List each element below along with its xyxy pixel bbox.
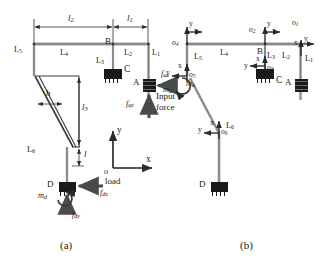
frame-origin-label-o3: o3 — [267, 64, 274, 72]
frame-axis-label-o2-y: y — [267, 20, 271, 28]
dimension-label-l1: l1 — [127, 14, 133, 24]
force-label-fay: fay — [126, 100, 134, 109]
frame-origin-label-o2: o2 — [249, 26, 256, 34]
diagram-vector-layer — [0, 0, 323, 267]
frame-axis-label-o3-y: y — [244, 62, 248, 70]
link-label-L3: L3 — [96, 57, 104, 66]
force-label-fdy: fdy — [72, 211, 80, 220]
figure-canvas: l2 l1 l3 h l L5 L4 L3 L2 L1 L6 B C A D f… — [0, 0, 323, 267]
global-axis-label-x: x — [146, 155, 151, 165]
frame-origin-label-o6: o6 — [221, 128, 228, 136]
block-D-b — [211, 182, 228, 196]
block-A — [143, 79, 156, 92]
frame-axis-label-o4-y: y — [189, 20, 193, 28]
input-force-label-line2: force — [156, 103, 174, 112]
joint-label-A-b: A — [285, 78, 292, 87]
force-label-fdx: fdx — [100, 189, 108, 198]
joint-label-C: C — [124, 65, 130, 75]
frame-origin-label-o4: o4 — [172, 39, 179, 47]
link-label-L4: L4 — [60, 49, 68, 58]
dimension-l — [72, 149, 84, 166]
link-label-L1-b: L1 — [305, 55, 313, 64]
frame-origin-label-o5: o5 — [189, 71, 196, 79]
frame-axis-label-o4-x: x — [194, 27, 198, 35]
link-label-L2-b: L2 — [282, 52, 290, 61]
frame-axis-label-o5-x: x — [178, 62, 182, 70]
dimension-label-l3: l3 — [82, 103, 88, 113]
link-label-L1: L1 — [152, 49, 160, 58]
link-label-L3-b: L3 — [267, 52, 275, 61]
mass-label-ma: ma — [186, 80, 195, 89]
link-label-L2: L2 — [124, 49, 132, 58]
frame-axis-label-o3-x: x — [256, 55, 260, 63]
joint-label-D-b: D — [199, 180, 206, 189]
link-label-L4-b: L4 — [220, 49, 228, 58]
joint-label-D: D — [47, 180, 54, 189]
link-label-L5: L5 — [14, 46, 22, 55]
load-label: load — [105, 177, 121, 186]
frame-axis-label-o5-y: y — [166, 69, 170, 77]
caption-a: (a) — [60, 240, 72, 251]
joint-label-B: B — [105, 37, 111, 46]
mass-label-md: md — [38, 192, 47, 201]
frame-origin-label-o1: o1 — [292, 19, 299, 27]
joint-label-A: A — [133, 78, 140, 87]
four-bar-linkage — [35, 76, 80, 147]
block-D — [59, 182, 76, 196]
mass-label-ma-b: ma — [163, 86, 172, 95]
block-A-b — [295, 79, 308, 92]
frame-axis-label-o6-y: y — [198, 126, 202, 134]
link-label-L5-b: L5 — [194, 53, 202, 62]
global-axis-label-y: y — [117, 126, 122, 136]
joint-label-C-b: C — [276, 76, 282, 86]
dimension-label-l: l — [84, 150, 87, 159]
frame-axis-label-o2-x: x — [272, 27, 276, 35]
block-C — [104, 69, 122, 83]
frame-axis-label-o1-x: x — [294, 39, 298, 47]
caption-b: (b) — [240, 240, 253, 251]
dimension-label-l2: l2 — [68, 14, 74, 24]
frame-axis-label-o6-x: x — [210, 119, 214, 127]
global-origin-label: o — [104, 168, 108, 176]
frame-axis-label-o1-y: y — [304, 35, 308, 43]
dimension-label-h: h — [46, 89, 51, 98]
link-label-L6: L6 — [27, 146, 35, 155]
